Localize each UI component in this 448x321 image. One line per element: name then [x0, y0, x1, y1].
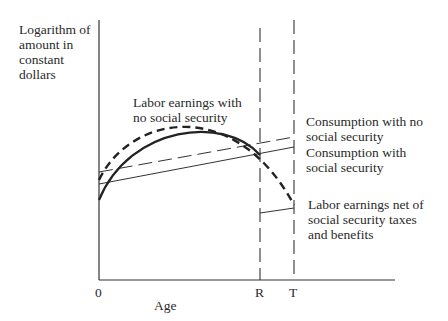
consumption-no-ss-label: Consumption with no social security	[306, 114, 423, 144]
labor-earnings-no-ss-label: Labor earnings with no social security	[133, 95, 242, 125]
consumption-with-ss-label: Consumption with social security	[306, 145, 406, 175]
net-labor-earnings-label: Labor earnings net of social security ta…	[308, 197, 424, 242]
y-axis-label: Logarithm of amount in constant dollars	[19, 22, 91, 82]
x-axis-label: Age	[154, 298, 177, 313]
x-tick-t: T	[289, 285, 297, 300]
consumption-no-ss-curve	[99, 137, 294, 172]
x-tick-origin: 0	[95, 285, 102, 300]
net-labor-earnings-curve	[260, 208, 294, 213]
x-tick-r: R	[255, 285, 264, 300]
